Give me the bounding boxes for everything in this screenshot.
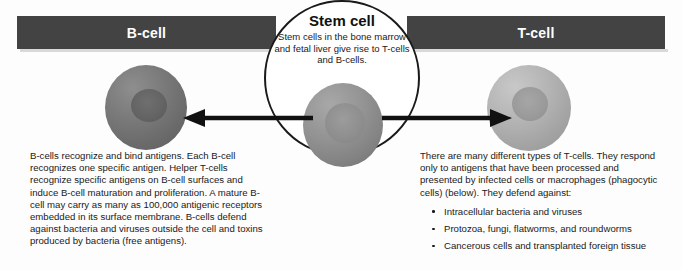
- list-item-label: Cancerous cells and transplanted foreign…: [444, 240, 646, 251]
- b-cell-nucleus: [131, 89, 167, 122]
- t-cell-nucleus: [512, 87, 548, 121]
- t-cell-description-block: There are many different types of T-cell…: [420, 150, 664, 257]
- header-label-b-cell: B-cell: [127, 25, 166, 41]
- diagram-canvas: B-cell T-cell Stem cell Stem cells in th…: [0, 0, 682, 270]
- list-item: Cancerous cells and transplanted foreign…: [420, 240, 664, 252]
- stem-cell-nucleus: [325, 103, 365, 143]
- bullet-dot-icon: [432, 245, 435, 248]
- b-cell-description: B-cells recognize and bind antigens. Eac…: [30, 150, 268, 248]
- header-bar-right-shadow: [410, 49, 668, 52]
- t-cell-defense-list: Intracellular bacteria and viruses Proto…: [420, 206, 664, 253]
- list-item-label: Intracellular bacteria and viruses: [444, 206, 582, 217]
- list-item: Intracellular bacteria and viruses: [420, 206, 664, 218]
- t-cell-description: There are many different types of T-cell…: [420, 150, 664, 199]
- header-bar-b-cell: B-cell: [17, 16, 276, 49]
- arrow-right-icon: [382, 105, 512, 135]
- stem-cell-title: Stem cell: [309, 12, 375, 29]
- list-item: Protozoa, fungi, flatworms, and roundwor…: [420, 223, 664, 235]
- header-label-t-cell: T-cell: [518, 25, 555, 41]
- b-cell-illustration: [105, 65, 187, 150]
- header-bar-left-shadow: [20, 49, 278, 52]
- bullet-dot-icon: [432, 228, 435, 231]
- stem-cell-illustration: [303, 83, 383, 167]
- stem-cell-description: Stem cells in the bone marrow and fetal …: [273, 31, 411, 66]
- arrow-left-icon: [183, 105, 313, 135]
- header-bar-t-cell: T-cell: [407, 16, 665, 49]
- bullet-dot-icon: [432, 210, 435, 213]
- list-item-label: Protozoa, fungi, flatworms, and roundwor…: [444, 223, 632, 234]
